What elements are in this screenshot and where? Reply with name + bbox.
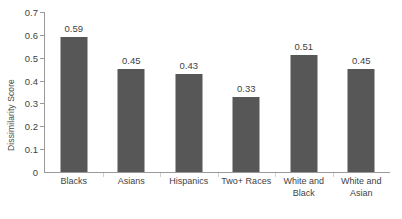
x-separator-mark <box>275 173 276 177</box>
bar-value-label: 0.59 <box>65 23 84 34</box>
bar-value-label: 0.51 <box>295 41 314 52</box>
y-tick-mark <box>40 103 44 104</box>
y-tick-label: 0.7 <box>12 7 38 18</box>
bar-value-label: 0.43 <box>180 60 199 71</box>
bar[interactable] <box>290 55 317 172</box>
category-label-line: Asians <box>103 176 161 188</box>
bar-chart: Dissimilarity Score 00.10.20.30.40.50.60… <box>0 0 402 219</box>
x-separator-mark <box>160 173 161 177</box>
y-tick-mark <box>40 35 44 36</box>
bar-slot: 0.45 <box>103 12 161 172</box>
y-tick-label: 0.1 <box>12 144 38 155</box>
category-label: White andBlack <box>275 176 333 199</box>
category-label-line: Hispanics <box>160 176 218 188</box>
bar-slot: 0.59 <box>45 12 103 172</box>
category-label-line: Two+ Races <box>218 176 276 188</box>
category-label: White andAsian <box>333 176 391 199</box>
bar[interactable] <box>233 97 260 172</box>
bar-slot: 0.33 <box>218 12 276 172</box>
y-tick-label: 0.2 <box>12 121 38 132</box>
bar[interactable] <box>118 69 145 172</box>
category-label-line: Asian <box>333 188 391 200</box>
x-separator-mark <box>218 173 219 177</box>
y-tick-mark <box>40 149 44 150</box>
y-axis-tick-labels: 00.10.20.30.40.50.60.7 <box>12 0 38 219</box>
bar-value-label: 0.45 <box>352 55 371 66</box>
bar-slot: 0.45 <box>333 12 391 172</box>
bar[interactable] <box>60 37 87 172</box>
bar[interactable] <box>175 74 202 172</box>
y-tick-mark <box>40 81 44 82</box>
category-label: Hispanics <box>160 176 218 188</box>
x-separator-mark <box>103 173 104 177</box>
category-label-line: White and <box>275 176 333 188</box>
category-label-line: Blacks <box>45 176 103 188</box>
category-label: Asians <box>103 176 161 188</box>
bar-value-label: 0.33 <box>237 83 256 94</box>
y-tick-label: 0 <box>12 167 38 178</box>
bar-value-label: 0.45 <box>122 55 141 66</box>
y-tick-label: 0.3 <box>12 98 38 109</box>
y-tick-label: 0.5 <box>12 52 38 63</box>
plot-area: 0.590.450.430.330.510.45 <box>45 12 390 172</box>
category-label-line: Black <box>275 188 333 200</box>
y-tick-label: 0.4 <box>12 75 38 86</box>
bar[interactable] <box>348 69 375 172</box>
bar-slot: 0.43 <box>160 12 218 172</box>
bar-slot: 0.51 <box>275 12 333 172</box>
category-label-line: White and <box>333 176 391 188</box>
y-tick-label: 0.6 <box>12 29 38 40</box>
y-tick-mark <box>40 12 44 13</box>
category-label: Two+ Races <box>218 176 276 188</box>
y-tick-mark <box>40 126 44 127</box>
y-tick-mark <box>40 58 44 59</box>
x-separator-mark <box>333 173 334 177</box>
x-axis-category-labels: BlacksAsiansHispanicsTwo+ RacesWhite and… <box>45 176 390 216</box>
category-label: Blacks <box>45 176 103 188</box>
